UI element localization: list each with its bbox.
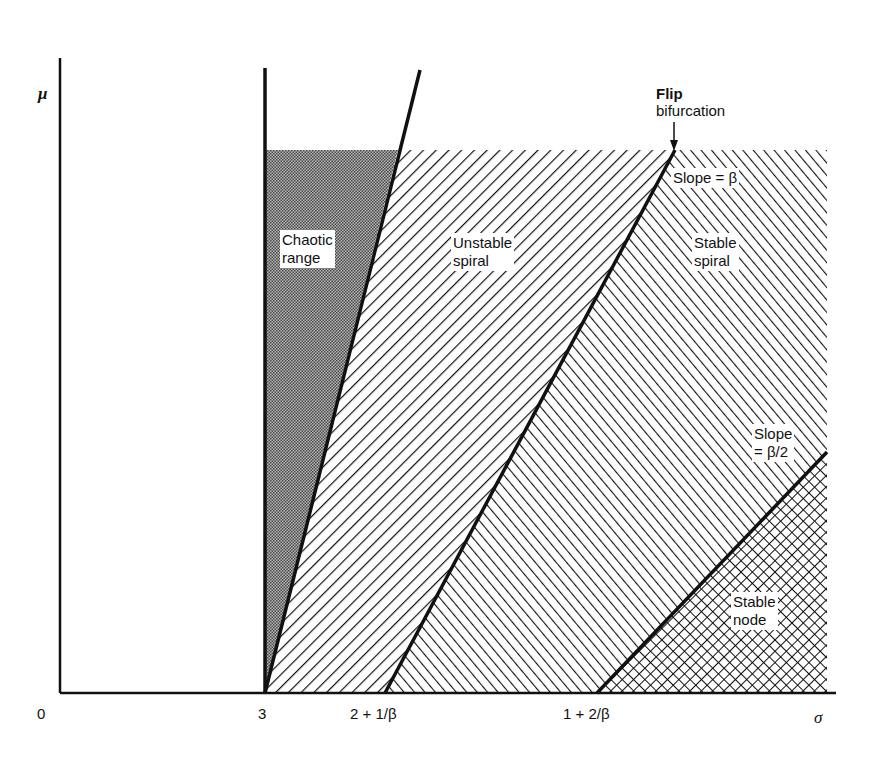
tick-3: 3 [258,705,266,722]
stable-node-label-line1: Stable [733,593,776,611]
chaotic-label-line2: range [282,249,333,267]
arrow-head-icon [670,140,678,151]
slope-half-line2: = β/2 [754,443,792,461]
bifurcation-diagram [0,0,883,765]
flip-label-line1: Flip [656,85,683,103]
stable-spiral-label-line2: spiral [694,252,737,270]
tick-1-plus-2-over-beta: 1 + 2/β [563,705,610,722]
slope-half-beta-label: Slope = β/2 [752,424,794,462]
flip-bifurcation-label-2: bifurcation [656,102,725,120]
flip-label-line2: bifurcation [656,102,725,120]
flip-bifurcation-label: Flip [656,85,683,103]
tick-2-plus-1-over-beta: 2 + 1/β [350,705,397,722]
unstable-label-line2: spiral [453,252,512,270]
y-axis-label: μ [38,85,47,103]
stable-spiral-label: Stable spiral [692,233,739,271]
stable-node-label-line2: node [733,611,776,629]
x-axis-label: σ [814,709,822,727]
unstable-spiral-label: Unstable spiral [451,233,514,271]
stable-node-label: Stable node [731,592,778,630]
slope-beta-label: Slope = β [671,168,739,188]
unstable-label-line1: Unstable [453,234,512,252]
tick-0: 0 [37,705,45,722]
chaotic-label-line1: Chaotic [282,231,333,249]
chaotic-range-label: Chaotic range [280,230,335,268]
stable-spiral-label-line1: Stable [694,234,737,252]
slope-half-line1: Slope [754,425,792,443]
